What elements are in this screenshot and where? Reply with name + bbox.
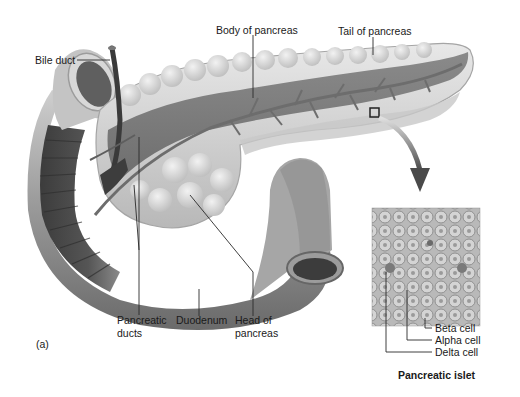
panel-label: (a) [36, 338, 49, 351]
label-bile-duct: Bile duct [35, 54, 75, 67]
label-alpha-cell: Alpha cell [435, 334, 481, 347]
label-delta-cell: Delta cell [435, 346, 478, 359]
label-body-of-pancreas: Body of pancreas [216, 24, 298, 37]
label-tail-of-pancreas: Tail of pancreas [338, 25, 412, 38]
islet-micrograph [372, 208, 480, 326]
inset-title: Pancreatic islet [398, 369, 475, 382]
label-head-of-pancreas: Head of pancreas [235, 314, 278, 339]
label-pancreatic-ducts: Pancreatic ducts [117, 314, 167, 339]
label-beta-cell: Beta cell [435, 322, 475, 335]
label-duodenum: Duodenum [176, 314, 227, 327]
